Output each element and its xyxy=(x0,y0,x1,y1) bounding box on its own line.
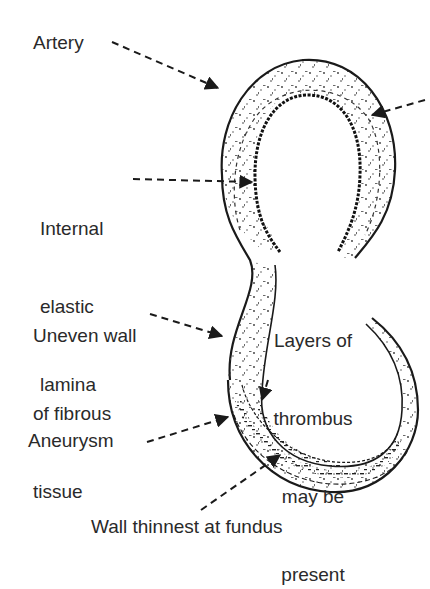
aneurysm-leader xyxy=(147,417,228,442)
label-line: Internal xyxy=(40,216,103,242)
label-thrombus: Layers of thrombus may be present xyxy=(258,276,368,589)
label-line: Layers of xyxy=(258,328,368,354)
label-line: Uneven wall xyxy=(33,323,137,349)
label-line: tissue xyxy=(33,479,137,505)
label-line: of fibrous xyxy=(33,401,137,427)
label-line: thrombus xyxy=(258,406,368,432)
label-artery: Artery xyxy=(33,30,84,56)
fibrous-leader xyxy=(150,314,222,336)
label-line: may be xyxy=(258,484,368,510)
artery-leader xyxy=(112,42,218,88)
label-wall-thinnest: Wall thinnest at fundus xyxy=(91,514,283,540)
label-aneurysm: Aneurysm xyxy=(28,428,114,454)
label-line: present xyxy=(258,562,368,588)
